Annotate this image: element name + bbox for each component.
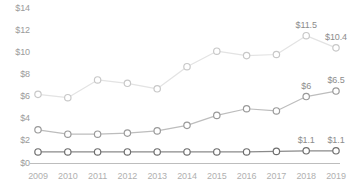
line-chart: $0$2$4$6$8$10$12$14 20092010201120122013… — [0, 0, 352, 193]
data-point-label: $6 — [301, 82, 311, 91]
data-point-label: $6.5 — [327, 76, 344, 85]
data-point-label: $11.5 — [296, 21, 317, 30]
data-point-label: $1.1 — [327, 136, 344, 145]
data-labels-layer: $11.5$10.4$6$6.5$1.1$1.1 — [0, 0, 352, 193]
data-point-label: $10.4 — [325, 33, 347, 42]
data-point-label: $1.1 — [298, 136, 315, 145]
